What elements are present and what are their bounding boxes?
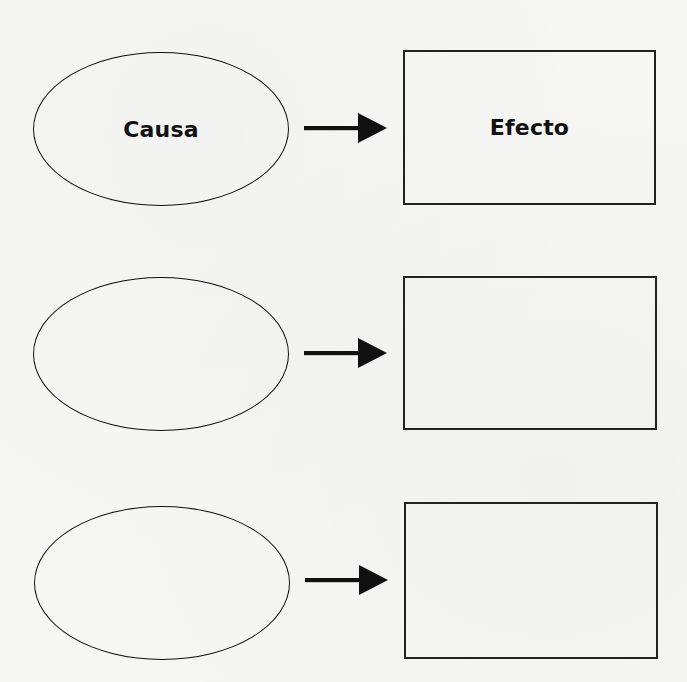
arrow-right-icon <box>305 564 389 596</box>
cause-ellipse-3[interactable] <box>34 506 290 660</box>
arrow-right-icon <box>304 112 388 144</box>
cause-label-1: Causa <box>123 117 199 142</box>
cause-ellipse-2[interactable] <box>33 277 289 431</box>
arrow-right-icon <box>304 337 388 369</box>
effect-label-1: Efecto <box>490 115 569 140</box>
effect-box-1[interactable]: Efecto <box>403 50 656 205</box>
effect-box-2[interactable] <box>403 276 657 430</box>
cause-effect-organizer: Causa Efecto <box>0 0 687 682</box>
effect-box-3[interactable] <box>404 502 658 659</box>
cause-ellipse-1[interactable]: Causa <box>33 52 289 206</box>
